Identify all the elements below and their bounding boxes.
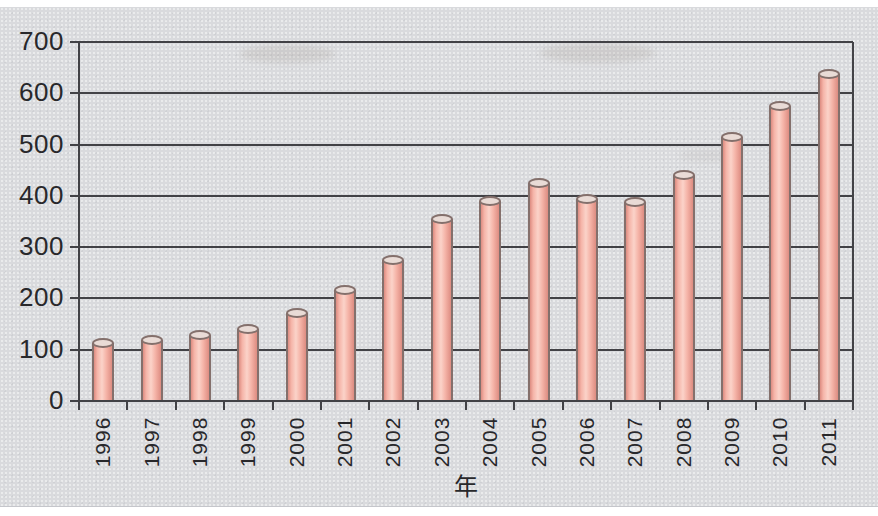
bar-2004 bbox=[479, 201, 501, 401]
bar-2003 bbox=[431, 219, 453, 401]
x-axis-tick bbox=[175, 402, 177, 410]
y-axis-tick-label: 500 bbox=[0, 128, 64, 159]
bar-2005 bbox=[528, 183, 550, 401]
grid-line-700 bbox=[79, 41, 853, 43]
bar-2001 bbox=[334, 290, 356, 401]
x-axis-tick bbox=[223, 402, 225, 410]
x-axis-tick-label: 1999 bbox=[236, 417, 260, 468]
x-axis-tick-label: 1996 bbox=[91, 417, 115, 468]
y-axis-tick-label: 700 bbox=[0, 26, 64, 57]
x-axis-tick-label: 2008 bbox=[672, 417, 696, 468]
bar-top-1999 bbox=[237, 324, 259, 334]
x-axis-tick bbox=[659, 402, 661, 410]
x-axis-tick-label: 2011 bbox=[817, 417, 841, 466]
x-axis-tick-label: 2009 bbox=[720, 417, 744, 468]
x-axis-tick-label: 1997 bbox=[140, 417, 164, 468]
y-axis-tick-label: 0 bbox=[0, 385, 64, 416]
y-axis-tick-label: 600 bbox=[0, 77, 64, 108]
bar-top-2003 bbox=[431, 214, 453, 224]
bar-1999 bbox=[237, 329, 259, 401]
y-axis-line bbox=[78, 42, 80, 402]
bar-2007 bbox=[624, 202, 646, 401]
x-axis-tick bbox=[755, 402, 757, 410]
x-axis-tick bbox=[610, 402, 612, 410]
x-axis-line bbox=[70, 400, 853, 402]
x-axis-tick bbox=[417, 402, 419, 410]
bar-1998 bbox=[189, 335, 211, 401]
x-axis-tick bbox=[513, 402, 515, 410]
bar-top-2011 bbox=[818, 69, 840, 79]
x-axis-tick bbox=[320, 402, 322, 410]
y-axis-tick-label: 400 bbox=[0, 180, 64, 211]
bar-2008 bbox=[673, 175, 695, 401]
x-axis-tick bbox=[272, 402, 274, 410]
grid-line-600 bbox=[79, 92, 853, 94]
y-axis-tick-label: 300 bbox=[0, 231, 64, 262]
bar-2002 bbox=[382, 260, 404, 401]
bar-1996 bbox=[92, 343, 114, 401]
bar-2011 bbox=[818, 74, 840, 401]
bar-1997 bbox=[141, 340, 163, 401]
x-axis-tick-label: 2002 bbox=[381, 417, 405, 468]
bar-top-2008 bbox=[673, 170, 695, 180]
x-axis-tick-label: 2004 bbox=[478, 417, 502, 468]
bar-top-2004 bbox=[479, 196, 501, 206]
x-axis-tick bbox=[126, 402, 128, 410]
bar-2009 bbox=[721, 137, 743, 401]
x-axis-tick bbox=[804, 402, 806, 410]
bar-2010 bbox=[769, 106, 791, 401]
x-axis-tick-label: 2010 bbox=[768, 417, 792, 468]
bar-2006 bbox=[576, 199, 598, 401]
bar-top-2006 bbox=[576, 194, 598, 204]
x-axis-tick-label: 2007 bbox=[623, 417, 647, 468]
x-axis-tick-label: 2006 bbox=[575, 417, 599, 468]
y-axis-tick-label: 200 bbox=[0, 282, 64, 313]
y-axis-tick-label: 100 bbox=[0, 334, 64, 365]
x-axis-tick-label: 2000 bbox=[285, 417, 309, 468]
x-axis-tick bbox=[852, 402, 854, 410]
bar-top-2005 bbox=[528, 178, 550, 188]
bar-2000 bbox=[286, 313, 308, 401]
x-axis-tick-label: 2005 bbox=[527, 417, 551, 468]
bar-top-2010 bbox=[769, 101, 791, 111]
bar-chart: 年 01002003004005006007001996199719981999… bbox=[0, 0, 878, 516]
x-axis-tick bbox=[562, 402, 564, 410]
x-axis-tick-label: 2001 bbox=[333, 417, 357, 468]
x-axis-tick bbox=[465, 402, 467, 410]
x-axis-tick bbox=[368, 402, 370, 410]
x-axis-title: 年 bbox=[454, 467, 478, 502]
scanned-page: 年 01002003004005006007001996199719981999… bbox=[0, 0, 878, 516]
x-axis-tick bbox=[707, 402, 709, 410]
x-axis-tick bbox=[78, 402, 80, 410]
x-axis-tick-label: 2003 bbox=[430, 417, 454, 468]
plot-right-border bbox=[852, 42, 854, 402]
x-axis-tick-label: 1998 bbox=[188, 417, 212, 468]
